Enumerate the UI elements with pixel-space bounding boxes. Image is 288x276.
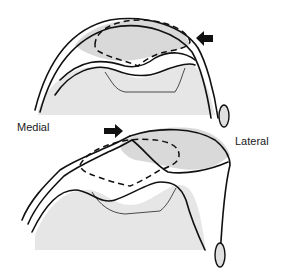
top-tendon-end	[219, 105, 229, 127]
bottom-tendon-end	[215, 243, 225, 267]
bottom-arrow-icon	[104, 124, 123, 138]
lateral-label: Lateral	[235, 135, 269, 147]
top-panel	[35, 19, 229, 127]
top-bone-shading	[38, 64, 215, 115]
medial-label: Medial	[17, 121, 49, 133]
knee-diagram: Medial Lateral	[0, 0, 288, 276]
bottom-panel	[22, 124, 230, 267]
top-arrow-icon	[196, 31, 213, 46]
